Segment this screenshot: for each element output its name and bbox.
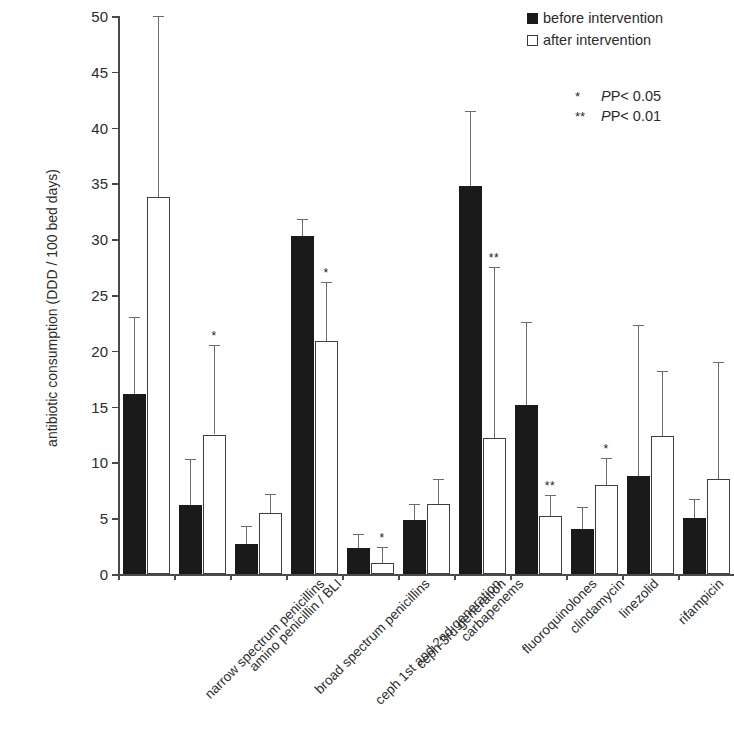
error-bar-cap bbox=[153, 16, 164, 17]
y-axis-tick-label: 15 bbox=[91, 398, 108, 415]
error-bar-cap bbox=[545, 495, 556, 496]
y-axis-tick-label: 25 bbox=[91, 287, 108, 304]
bar-after-intervention bbox=[539, 516, 562, 574]
error-bar-cap bbox=[657, 371, 668, 372]
error-bar bbox=[638, 325, 639, 476]
x-axis-label: amino penicillin / BLI bbox=[246, 576, 344, 674]
error-bar bbox=[470, 111, 471, 186]
error-bar bbox=[302, 219, 303, 236]
error-bar-cap bbox=[241, 526, 252, 527]
bar-after-intervention bbox=[427, 504, 450, 574]
error-bar-cap bbox=[129, 317, 140, 318]
error-bar bbox=[494, 267, 495, 438]
bar-after-intervention bbox=[203, 435, 226, 575]
bar-before-intervention bbox=[403, 520, 426, 574]
y-axis-tick-label: 45 bbox=[91, 63, 108, 80]
error-bar bbox=[526, 322, 527, 406]
bar-after-intervention bbox=[315, 341, 338, 574]
bar-chart-figure: before intervention after intervention *… bbox=[0, 0, 734, 733]
error-bar-cap bbox=[321, 282, 332, 283]
error-bar bbox=[582, 507, 583, 529]
error-bar bbox=[190, 459, 191, 505]
bar-before-intervention bbox=[571, 529, 594, 574]
bar-before-intervention bbox=[291, 236, 314, 574]
bar-group: * bbox=[174, 16, 230, 574]
bar-before-intervention bbox=[123, 394, 146, 574]
error-bar-cap bbox=[577, 507, 588, 508]
bar-group: ** bbox=[454, 16, 510, 574]
bar-after-intervention bbox=[651, 436, 674, 574]
error-bar bbox=[134, 317, 135, 394]
error-bar-cap bbox=[521, 322, 532, 323]
bar-group: * bbox=[566, 16, 622, 574]
bar-after-intervention bbox=[371, 563, 394, 574]
y-axis-tick-label: 5 bbox=[100, 510, 108, 527]
significance-marker: * bbox=[379, 533, 384, 543]
error-bar bbox=[158, 16, 159, 197]
error-bar bbox=[550, 495, 551, 516]
error-bar-cap bbox=[185, 459, 196, 460]
bar-after-intervention bbox=[147, 197, 170, 574]
error-bar bbox=[214, 345, 215, 434]
error-bar bbox=[326, 282, 327, 341]
error-bar bbox=[382, 547, 383, 563]
error-bar bbox=[270, 494, 271, 513]
error-bar bbox=[358, 534, 359, 549]
significance-marker: * bbox=[323, 268, 328, 278]
significance-marker: * bbox=[603, 444, 608, 454]
error-bar-cap bbox=[353, 534, 364, 535]
error-bar-cap bbox=[713, 362, 724, 363]
error-bar-cap bbox=[633, 325, 644, 326]
x-axis-label: narrow spectrum penicillins bbox=[202, 576, 328, 702]
bar-group: ** bbox=[510, 16, 566, 574]
bar-group: * bbox=[286, 16, 342, 574]
bar-before-intervention bbox=[459, 186, 482, 574]
bar-group bbox=[678, 16, 734, 574]
bar-after-intervention bbox=[595, 485, 618, 574]
y-axis-tick-label: 0 bbox=[100, 566, 108, 583]
y-axis-tick-label: 40 bbox=[91, 119, 108, 136]
error-bar bbox=[718, 362, 719, 479]
y-axis-tick-label: 50 bbox=[91, 8, 108, 25]
bar-before-intervention bbox=[179, 505, 202, 574]
bar-before-intervention bbox=[683, 518, 706, 574]
bar-before-intervention bbox=[627, 476, 650, 574]
error-bar-cap bbox=[689, 499, 700, 500]
error-bar bbox=[414, 504, 415, 521]
error-bar-cap bbox=[209, 345, 220, 346]
bar-group bbox=[118, 16, 174, 574]
bar-group bbox=[622, 16, 678, 574]
significance-marker: ** bbox=[545, 481, 555, 491]
y-axis-title: antibiotic consumption (DDD / 100 bed da… bbox=[44, 108, 60, 508]
error-bar bbox=[246, 526, 247, 544]
y-axis-tick-label: 30 bbox=[91, 231, 108, 248]
error-bar-cap bbox=[265, 494, 276, 495]
bar-before-intervention bbox=[235, 544, 258, 574]
plot-area: 05101520253035404550 ******** bbox=[118, 16, 734, 574]
error-bar bbox=[694, 499, 695, 518]
error-bar-cap bbox=[465, 111, 476, 112]
bar-group bbox=[398, 16, 454, 574]
y-axis-tick-label: 10 bbox=[91, 454, 108, 471]
error-bar-cap bbox=[409, 504, 420, 505]
error-bar-cap bbox=[377, 547, 388, 548]
error-bar-cap bbox=[601, 458, 612, 459]
bar-before-intervention bbox=[515, 405, 538, 574]
error-bar-cap bbox=[433, 479, 444, 480]
bar-after-intervention bbox=[483, 438, 506, 574]
y-axis-tick-label: 20 bbox=[91, 342, 108, 359]
error-bar bbox=[606, 458, 607, 485]
bar-group: * bbox=[342, 16, 398, 574]
error-bar-cap bbox=[297, 219, 308, 220]
significance-marker: ** bbox=[489, 253, 499, 263]
error-bar bbox=[438, 479, 439, 504]
x-axis-labels: narrow spectrum penicillinsamino penicil… bbox=[118, 576, 734, 733]
y-axis-tick-label: 35 bbox=[91, 175, 108, 192]
bar-group bbox=[230, 16, 286, 574]
error-bar-cap bbox=[489, 267, 500, 268]
significance-marker: * bbox=[211, 331, 216, 341]
error-bar bbox=[662, 371, 663, 436]
bar-after-intervention bbox=[259, 513, 282, 574]
bar-before-intervention bbox=[347, 548, 370, 574]
x-axis-label: rifampicin bbox=[675, 576, 726, 627]
